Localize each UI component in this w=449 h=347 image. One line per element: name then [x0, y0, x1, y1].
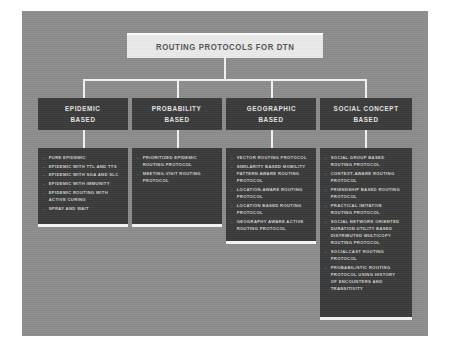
protocol-list-social-concept-based: SOCIAL GROUP BASED ROUTING PROTOCOL CONT… — [320, 148, 412, 320]
connector-probability-to-list — [177, 130, 179, 148]
root-node[interactable]: ROUTING PROTOCOLS FOR DTN — [127, 33, 323, 58]
connector-drop-geographic — [271, 79, 273, 98]
category-header-probability-based[interactable]: PROBABILITY BASED — [132, 98, 222, 130]
connector-drop-social — [365, 79, 367, 98]
category-header-line1: SOCIAL CONCEPT — [333, 103, 398, 114]
list-item: LOCATION BASED ROUTING PROTOCOL — [231, 202, 307, 216]
category-header-line2: BASED — [164, 114, 189, 125]
category-header-geographic-based[interactable]: GEOGRAPHIC BASED — [226, 98, 316, 130]
category-header-line1: EPIDEMIC — [65, 103, 101, 114]
connector-epidemic-to-list — [83, 130, 85, 148]
list-item: PRACTICAL IMITATIVE ROUTING PROTOCOL — [325, 202, 403, 216]
list-item: EPIDEMIC WITH SGA AND SLC — [43, 171, 119, 178]
list-item: VECTOR ROUTING PROTOCOL — [231, 154, 307, 161]
list-item: EPIDEMIC ROUTING WITH ACTIVE CURING — [43, 189, 119, 203]
list-item: SIMILARITY BASED MOBILITY PATTERN AWARE … — [231, 163, 307, 185]
list-item: FRIENDSHIP BASED ROUTING PROTOCOL — [325, 186, 403, 200]
list-item: SPRAY AND WAIT — [43, 205, 119, 212]
list-item: SOCIAL GROUP BASED ROUTING PROTOCOL — [325, 154, 403, 168]
diagram-canvas: ROUTING PROTOCOLS FOR DTN EPIDEMIC BASED… — [22, 11, 428, 336]
category-header-line2: BASED — [258, 114, 283, 125]
protocol-list-probability-based: PRIORITIZED EPIDEMIC ROUTING PROTOCOL ME… — [132, 148, 222, 227]
list-item: GEOGRAPHY AWARE ACTIVE ROUTING PROTOCOL — [231, 218, 307, 232]
category-header-line1: GEOGRAPHIC — [246, 103, 295, 114]
list-item: SOCIALCAST ROUTING PROTOCOL — [325, 248, 403, 262]
protocol-list-geographic-based: VECTOR ROUTING PROTOCOL SIMILARITY BASED… — [226, 148, 316, 244]
connector-drop-epidemic — [83, 79, 85, 98]
protocol-list: PURE EPIDEMIC EPIDEMIC WITH TTL AND TTS … — [43, 154, 123, 212]
list-item: MEETING-VISIT ROUTING PROTOCOL — [137, 170, 213, 184]
protocol-list-epidemic-based: PURE EPIDEMIC EPIDEMIC WITH TTL AND TTS … — [38, 148, 128, 227]
list-item: EPIDEMIC WITH TTL AND TTS — [43, 163, 119, 170]
connector-root-stem — [224, 58, 226, 79]
list-item: EPIDEMIC WITH IMMUNITY — [43, 180, 119, 187]
category-header-line2: BASED — [353, 114, 378, 125]
connector-drop-probability — [177, 79, 179, 98]
list-item: CONTEXT-AWARE ROUTING PROTOCOL — [325, 170, 403, 184]
diagram-root: ROUTING PROTOCOLS FOR DTN EPIDEMIC BASED… — [0, 0, 449, 347]
root-node-label: ROUTING PROTOCOLS FOR DTN — [156, 42, 294, 52]
protocol-list: PRIORITIZED EPIDEMIC ROUTING PROTOCOL ME… — [137, 154, 217, 184]
connector-social-to-list — [365, 130, 367, 148]
list-item: PURE EPIDEMIC — [43, 154, 119, 161]
connector-geographic-to-list — [271, 130, 273, 148]
list-item: PROBABILISTIC ROUTING PROTOCOL USING HIS… — [325, 264, 403, 293]
category-header-epidemic-based[interactable]: EPIDEMIC BASED — [38, 98, 128, 130]
category-header-line2: BASED — [70, 114, 95, 125]
category-header-social-concept-based[interactable]: SOCIAL CONCEPT BASED — [320, 98, 412, 130]
connector-horizontal-bus — [83, 79, 366, 81]
category-header-line1: PROBABILITY — [152, 103, 202, 114]
protocol-list: SOCIAL GROUP BASED ROUTING PROTOCOL CONT… — [325, 154, 407, 293]
protocol-list: VECTOR ROUTING PROTOCOL SIMILARITY BASED… — [231, 154, 311, 232]
list-item: PRIORITIZED EPIDEMIC ROUTING PROTOCOL — [137, 154, 213, 168]
list-item: SOCIAL NETWORK ORIENTED DURATION UTILITY… — [325, 218, 403, 247]
list-item: LOCATION-AWARE ROUTING PROTOCOL — [231, 186, 307, 200]
